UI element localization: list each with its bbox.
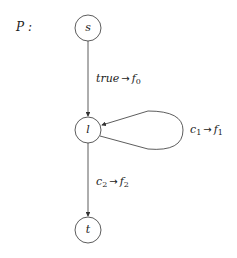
fn-subscript: 1 <box>218 128 223 137</box>
guard-subscript: 1 <box>196 128 201 137</box>
node-t-label: t <box>75 217 101 243</box>
node-s-label: s <box>75 15 101 41</box>
node-l-label: l <box>75 117 101 143</box>
guard-text: true <box>96 72 119 85</box>
guard-subscript: 2 <box>102 180 107 189</box>
diagram-canvas: P : s l t true→f0 c1→f1 c2→f2 <box>0 0 237 258</box>
arrow-icon: → <box>121 73 129 84</box>
diagram-title: P : <box>16 21 32 33</box>
edge-s-l-label: true→f0 <box>96 73 141 86</box>
edge-l-loop-label: c1→f1 <box>190 124 223 137</box>
arrow-icon: → <box>109 176 117 187</box>
fn-subscript: 0 <box>136 77 141 86</box>
fn-subscript: 2 <box>124 180 129 189</box>
edge-l-self-loop <box>100 111 183 149</box>
arrow-icon: → <box>203 124 211 135</box>
edge-l-t-label: c2→f2 <box>96 176 129 189</box>
